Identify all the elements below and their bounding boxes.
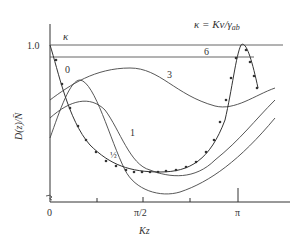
curve-label-1: 1 — [130, 127, 135, 138]
axis-break-icon — [46, 195, 52, 200]
curve-label-half: ½ — [110, 150, 117, 160]
figure-plot: κ = Kv/γab κ 1.0 6 3 0 1 ½ D(z)/N̄ 0 π/2… — [0, 0, 303, 247]
formula-label: κ = Kv/γab — [194, 18, 240, 32]
y-tick-label: 1.0 — [27, 40, 40, 51]
x-axis-label: Kz — [138, 225, 150, 236]
y-axis-label: D(z)/N̄ — [13, 111, 25, 141]
curve-1 — [50, 100, 275, 176]
curve-label-0: 0 — [65, 64, 70, 75]
curve-0-markers — [55, 49, 259, 174]
curve-label-3: 3 — [167, 69, 172, 80]
legend-title: κ — [63, 30, 69, 42]
x-tick-label-pi: π — [235, 207, 240, 218]
curve-label-6: 6 — [204, 46, 209, 57]
curve-0 — [50, 44, 258, 172]
x-tick-label-0: 0 — [47, 207, 52, 218]
x-tick-label-half-pi: π/2 — [134, 207, 147, 218]
